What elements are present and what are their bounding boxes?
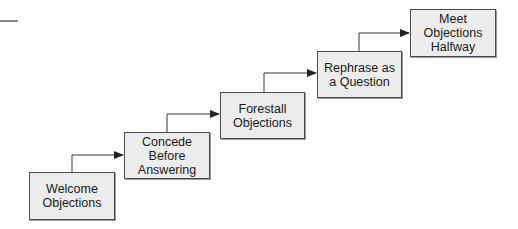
step-label: Meet Objections Halfway [423,12,482,54]
step-label: Concede Before Answering [138,135,196,177]
arrow-step3-to-step4 [264,73,316,92]
step-forestall-objections: Forestall Objections [220,92,305,139]
arrow-step2-to-step3 [167,114,219,132]
step-meet-objections-halfway: Meet Objections Halfway [410,9,496,57]
arrow-step1-to-step2 [72,155,123,172]
step-label: Forestall Objections [233,102,292,130]
step-rephrase-as-question: Rephrase as a Question [317,51,402,98]
step-label: Rephrase as a Question [324,61,395,89]
arrow-step4-to-step5 [359,33,409,51]
step-concede-before-answering: Concede Before Answering [124,132,210,179]
step-welcome-objections: Welcome Objections [29,172,115,220]
step-label: Welcome Objections [42,182,101,210]
